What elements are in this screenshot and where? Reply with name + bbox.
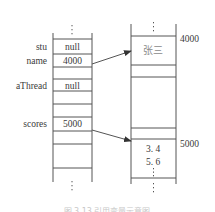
value-scores: 5000 xyxy=(63,119,82,129)
stack-top-ellipsis-icon xyxy=(72,25,73,34)
arrow-name-to-4000 xyxy=(92,51,131,64)
figure-caption: 图 3.13 引用变量示意图 xyxy=(64,206,151,212)
value-name: 4000 xyxy=(63,56,82,66)
value-athread: null xyxy=(65,81,80,91)
label-name: name xyxy=(26,56,47,66)
heap-string-value: 张三 xyxy=(143,45,163,56)
address-4000: 4000 xyxy=(180,34,199,44)
value-stu: null xyxy=(65,42,80,52)
stack-bottom-ellipsis-icon xyxy=(72,181,73,190)
heap-table: 张三 4000 3. 4 5. 6 5000 xyxy=(131,22,199,192)
heap-top-ellipsis-icon xyxy=(153,22,154,31)
array-element-1: 5. 6 xyxy=(146,157,161,167)
arrow-scores-to-5000 xyxy=(92,130,131,141)
stack-table: stu name aThread scores null 4000 null 5… xyxy=(16,25,92,190)
memory-diagram: stu name aThread scores null 4000 null 5… xyxy=(0,0,215,212)
label-scores: scores xyxy=(23,119,47,129)
array-element-0: 3. 4 xyxy=(146,144,161,154)
array-ellipsis-icon xyxy=(153,168,154,176)
label-stu: stu xyxy=(36,42,47,52)
address-5000: 5000 xyxy=(180,139,199,149)
label-athread: aThread xyxy=(16,81,47,91)
heap-bottom-ellipsis-icon xyxy=(153,183,154,192)
